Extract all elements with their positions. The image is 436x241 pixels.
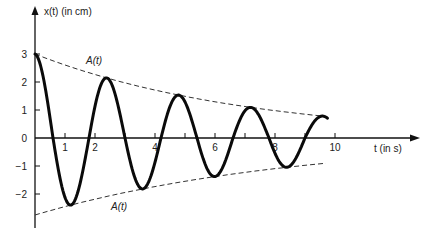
- y-ticks: 3210−1−2: [16, 49, 40, 200]
- y-tick-label: 3: [21, 49, 27, 60]
- damped-oscillation-chart: 3210−1−2 1246810 x(t) (in cm) t (in s) A…: [0, 0, 436, 241]
- x-tick-label: 1: [62, 142, 68, 153]
- y-axis-label: x(t) (in cm): [44, 6, 92, 17]
- y-axis-arrow-icon: [32, 6, 39, 15]
- x-axis-label: t (in s): [374, 143, 402, 154]
- y-tick-label: 1: [21, 105, 27, 116]
- upper-envelope-line: [35, 54, 326, 116]
- x-tick-label: 10: [329, 142, 341, 153]
- displacement-curve: [35, 54, 328, 205]
- x-axis-arrow-icon: [410, 135, 420, 142]
- y-tick-label: −1: [16, 161, 28, 172]
- y-tick-label: 0: [21, 133, 27, 144]
- plot-area: 3210−1−2 1246810 x(t) (in cm) t (in s) A…: [0, 0, 436, 241]
- lower-envelope-label: A(t): [110, 201, 127, 212]
- upper-envelope-label: A(t): [85, 55, 102, 66]
- x-tick-label: 2: [92, 142, 98, 153]
- y-tick-label: −2: [16, 189, 28, 200]
- y-tick-label: 2: [21, 77, 27, 88]
- x-tick-label: 6: [212, 142, 218, 153]
